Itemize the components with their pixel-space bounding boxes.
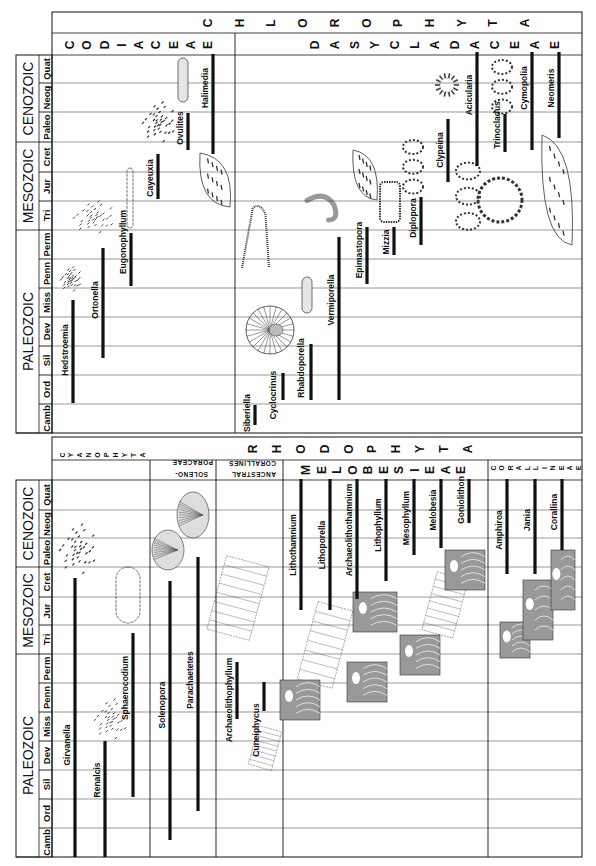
cell-row	[315, 611, 350, 620]
fragment	[115, 717, 117, 719]
taxon-range-clypeina: Clypeina	[435, 119, 450, 182]
blade-mark	[559, 223, 560, 228]
fragment	[101, 224, 103, 226]
group-letter: I	[541, 467, 548, 469]
fragment	[92, 546, 94, 548]
fragment	[78, 277, 80, 279]
range-bar	[355, 479, 358, 599]
group-letter: Y	[121, 452, 128, 457]
fragment	[153, 119, 155, 121]
group-letter: D	[308, 40, 322, 49]
cell-row	[431, 594, 462, 602]
fragment	[59, 549, 61, 551]
group-letter: L	[532, 465, 539, 470]
fragment	[72, 563, 74, 565]
fossil-illustration-blade	[353, 150, 378, 200]
fossil-illustration-tube	[302, 277, 312, 313]
range-bar	[103, 741, 106, 857]
fragment	[64, 281, 66, 283]
group-letter: E	[167, 41, 181, 49]
blade-mark	[370, 194, 371, 199]
taxon-range-parachaetetes: Parachaetetes	[185, 557, 200, 811]
fragment	[102, 710, 104, 712]
whorl-ray	[247, 330, 270, 336]
ring	[456, 188, 480, 205]
fragment	[83, 529, 85, 531]
group-letter: H	[423, 19, 437, 28]
fragment	[120, 729, 122, 731]
group-letter: N	[549, 465, 556, 470]
fragment	[147, 136, 149, 138]
fragment	[67, 269, 69, 271]
taxon-label: Mesophyllum	[401, 490, 411, 545]
range-bar	[186, 113, 189, 150]
group-letter: A	[528, 40, 542, 49]
fossil-illustration-shell	[152, 530, 184, 570]
fragment	[71, 538, 73, 540]
fragment	[77, 214, 79, 216]
range-bar	[530, 52, 533, 150]
fragment	[106, 730, 108, 732]
group-header-text: SOLENO-	[175, 471, 208, 478]
taxon-range-girvanella: Girvanella	[62, 578, 77, 857]
fragment	[154, 126, 156, 128]
group-letter: N	[85, 452, 92, 457]
fragment	[111, 708, 113, 710]
group-letter: B	[361, 465, 375, 474]
fossil-illustration-barrel	[380, 182, 400, 222]
blade-mark	[363, 159, 364, 164]
fragment	[73, 217, 75, 219]
taxon-range-acicularia: Acicularia	[464, 52, 479, 166]
taxon-label: Lithothamnium	[288, 514, 298, 576]
blade-outline	[353, 150, 378, 200]
fragment	[102, 213, 104, 215]
blade-mark	[217, 166, 218, 171]
taxon-label: Sphaerocodium	[120, 655, 130, 720]
blade-mark	[550, 177, 551, 182]
blade-mark	[359, 183, 360, 188]
group-letter: D	[318, 444, 332, 453]
fragment	[114, 698, 116, 700]
block	[445, 550, 485, 590]
fragment	[82, 209, 84, 211]
group-letter: C	[59, 452, 66, 457]
group-letter: Y	[67, 452, 74, 457]
range-bar	[196, 557, 199, 811]
taxon-range-vermiporella: Vermiporella	[326, 237, 341, 400]
group-letter: E	[315, 466, 329, 474]
fragment	[172, 130, 174, 132]
fragment	[105, 726, 107, 728]
group-letter: H	[112, 452, 119, 457]
fragment	[75, 531, 77, 533]
group-letter: A	[328, 40, 342, 49]
taxon-label: Melobesia	[428, 489, 438, 530]
blade-mark	[554, 215, 555, 220]
fragment	[111, 223, 113, 225]
fragment	[96, 216, 98, 218]
taxon-label: Cuneiphycus	[251, 703, 261, 757]
fragment	[66, 554, 68, 556]
fragment	[90, 215, 92, 217]
taxon-range-epimastopora: Epimastopora	[354, 221, 369, 284]
taxon-label: Acicularia	[464, 74, 474, 115]
group-letter: L	[524, 465, 531, 470]
conceptacle	[450, 560, 458, 572]
period-label-neog: Neog	[41, 512, 52, 536]
taxon-range-cyclocrinus: Cyclocrinus	[268, 370, 285, 419]
taxon-range-ovulites: Ovulites	[175, 111, 190, 150]
fragment	[75, 275, 77, 277]
range-bar	[262, 682, 265, 711]
fragment	[105, 716, 107, 718]
range-bar	[392, 227, 395, 255]
period-label-quat: Quat	[41, 483, 52, 505]
group-letter: E	[423, 466, 437, 474]
blade-mark	[359, 155, 360, 160]
group-letter: R	[507, 465, 514, 470]
fragment	[70, 272, 72, 274]
taxon-range-hedstroemia: Hedstroemia	[60, 300, 75, 403]
blade-outline	[200, 153, 231, 207]
fragment	[79, 560, 81, 562]
fragment	[163, 120, 165, 122]
fragment	[99, 733, 101, 735]
star-spike	[451, 76, 454, 80]
